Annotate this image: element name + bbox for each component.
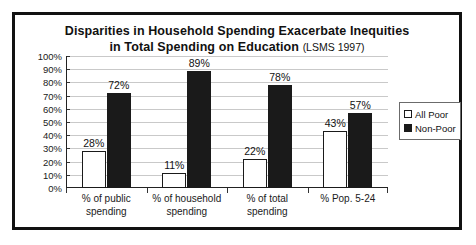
x-axis-labels: % of publicspending% of householdspendin… — [66, 193, 388, 227]
y-axis-tick-label: 20% — [43, 156, 62, 167]
bar-value-label: 43% — [325, 117, 346, 129]
plot-wrap: 28%72%11%89%22%78%43%57% — [66, 56, 388, 188]
x-axis-category-line: % of household — [147, 193, 228, 206]
bar-group: 43%57% — [308, 56, 389, 188]
y-axis-labels: 0%10%20%30%40%50%60%70%80%90%100% — [19, 56, 64, 188]
legend-item-label: All Poor — [415, 109, 448, 120]
white-square-icon — [404, 110, 412, 118]
y-axis-tick-label: 80% — [43, 77, 62, 88]
x-axis-category-line: spending — [66, 206, 147, 219]
bar-value-label: 89% — [189, 57, 210, 69]
x-axis-category-line: % of public — [66, 193, 147, 206]
bar-value-label: 57% — [350, 99, 371, 111]
bar-all-poor[interactable] — [82, 151, 106, 188]
y-axis-tick-label: 0% — [48, 183, 62, 194]
bar-value-label: 22% — [244, 145, 265, 157]
x-axis-category-line: spending — [227, 206, 308, 219]
bar-value-label: 72% — [108, 79, 129, 91]
bar-all-poor[interactable] — [243, 159, 267, 188]
black-square-icon — [404, 124, 412, 132]
y-axis-tick-label: 90% — [43, 64, 62, 75]
y-axis-tick-label: 70% — [43, 90, 62, 101]
bar-value-label: 78% — [269, 71, 290, 83]
y-axis-tick-label: 30% — [43, 143, 62, 154]
chart-title-source: (LSMS 1997) — [303, 41, 365, 53]
chart-title-line-1: Disparities in Household Spending Exacer… — [65, 24, 409, 38]
bar-all-poor[interactable] — [323, 131, 347, 188]
y-axis-tick-label: 60% — [43, 103, 62, 114]
bars-layer: 28%72%11%89%22%78%43%57% — [66, 56, 388, 188]
bar-group: 28%72% — [66, 56, 147, 188]
chart-legend: All PoorNon-Poor — [399, 102, 461, 140]
bar-non-poor[interactable] — [107, 93, 131, 188]
y-axis-tick-label: 40% — [43, 130, 62, 141]
x-axis-category-line: spending — [147, 206, 228, 219]
bar-non-poor[interactable] — [187, 71, 211, 188]
bar-non-poor[interactable] — [268, 85, 292, 188]
bar-value-label: 11% — [164, 159, 184, 171]
y-axis-tick-label: 10% — [43, 169, 62, 180]
bar-value-label: 28% — [83, 137, 104, 149]
bar-group: 11%89% — [147, 56, 228, 188]
legend-item-label: Non-Poor — [415, 123, 456, 134]
bar-all-poor[interactable] — [162, 173, 186, 188]
y-axis-tick-label: 50% — [43, 117, 62, 128]
bar-non-poor[interactable] — [348, 113, 372, 188]
x-axis-category-line: % of total — [227, 193, 308, 206]
chart-title-line-2: in Total Spending on Education — [109, 40, 299, 54]
legend-item[interactable]: Non-Poor — [404, 121, 456, 135]
bar-group: 22%78% — [227, 56, 308, 188]
y-axis-tick-label: 100% — [38, 51, 62, 62]
x-axis-category-label: % Pop. 5-24 — [308, 193, 389, 206]
x-axis-category-line: % Pop. 5-24 — [308, 193, 389, 206]
x-axis-category-label: % of householdspending — [147, 193, 228, 218]
legend-item[interactable]: All Poor — [404, 107, 456, 121]
chart-frame: Disparities in Household Spending Exacer… — [12, 12, 462, 230]
chart-title: Disparities in Household Spending Exacer… — [15, 23, 459, 55]
x-axis-category-label: % of totalspending — [227, 193, 308, 218]
x-axis-category-label: % of publicspending — [66, 193, 147, 218]
